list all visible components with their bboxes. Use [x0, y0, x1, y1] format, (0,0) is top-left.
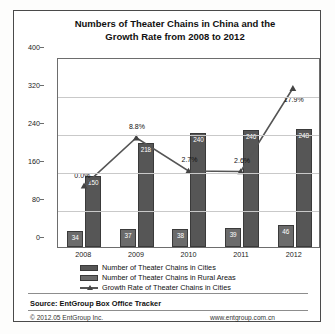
growth-rate-line	[58, 59, 319, 247]
legend-swatch-rural	[80, 275, 98, 281]
chart-legend: Number of Theater Chains in Cities Numbe…	[80, 263, 290, 293]
chart-title-line-2: Growth Rate from 2008 to 2012	[44, 30, 306, 43]
legend-label-growth-rate: Growth Rate of Theater Chains in Cities	[102, 283, 231, 292]
gridline	[58, 135, 319, 136]
y-axis-tick-label: 240	[12, 119, 40, 128]
legend-label-rural: Number of Theater Chains in Rural Areas	[102, 273, 236, 282]
y-axis-tick-label: 160	[12, 157, 40, 166]
y-axis-tick	[40, 47, 44, 48]
x-axis-label: 2012	[286, 250, 302, 259]
legend-label-cities: Number of Theater Chains in Cities	[102, 263, 216, 272]
growth-rate-marker	[290, 85, 297, 91]
x-axis-label: 2009	[128, 250, 144, 259]
plot-area: 3415037218382403924646248 0.0%8.8%2.7%2.…	[57, 58, 320, 248]
chart-frame: Numbers of Theater Chains in China and t…	[13, 10, 321, 322]
x-axis-label: 2011	[233, 250, 248, 259]
legend-swatch-cities	[80, 265, 98, 271]
y-axis-tick-label: 400	[12, 43, 40, 52]
gridline	[58, 97, 319, 98]
y-axis-tick-label: 320	[12, 81, 40, 90]
divider-bottom	[28, 310, 308, 311]
growth-rate-point-label: 2.6%	[234, 157, 250, 164]
gridline	[58, 211, 319, 212]
gridline	[58, 173, 319, 174]
y-axis-tick	[40, 199, 44, 200]
x-axis-label: 2010	[181, 250, 197, 259]
source-note: Source: EntGroup Box Office Tracker	[30, 299, 161, 308]
x-axis-label: 2008	[75, 250, 91, 259]
y-axis-tick	[40, 85, 44, 86]
y-axis-tick-label: 80	[12, 195, 40, 204]
chart-title-line-1: Numbers of Theater Chains in China and t…	[44, 17, 306, 30]
x-axis-labels: 20082009201020112012	[57, 250, 320, 262]
y-axis-tick	[40, 161, 44, 162]
website-url: www.entgroup.com.cn	[210, 314, 275, 321]
y-axis-tick	[40, 237, 44, 238]
legend-item-growth-rate: Growth Rate of Theater Chains in Cities	[80, 283, 290, 293]
chart-page: Numbers of Theater Chains in China and t…	[0, 0, 335, 334]
growth-rate-point-label: 8.8%	[129, 123, 145, 130]
y-axis: 080160240320400	[8, 47, 40, 237]
legend-item-rural: Number of Theater Chains in Rural Areas	[80, 273, 290, 283]
chart-title: Numbers of Theater Chains in China and t…	[44, 17, 306, 43]
divider-top	[28, 293, 308, 294]
y-axis-tick	[40, 123, 44, 124]
growth-rate-point-label: 2.7%	[182, 156, 198, 163]
y-axis-tick-label: 0	[12, 233, 40, 242]
legend-item-cities: Number of Theater Chains in Cities	[80, 263, 290, 273]
copyright-note: © 2012.05 EntGroup Inc.	[30, 314, 103, 321]
legend-swatch-growth-rate	[80, 285, 98, 291]
